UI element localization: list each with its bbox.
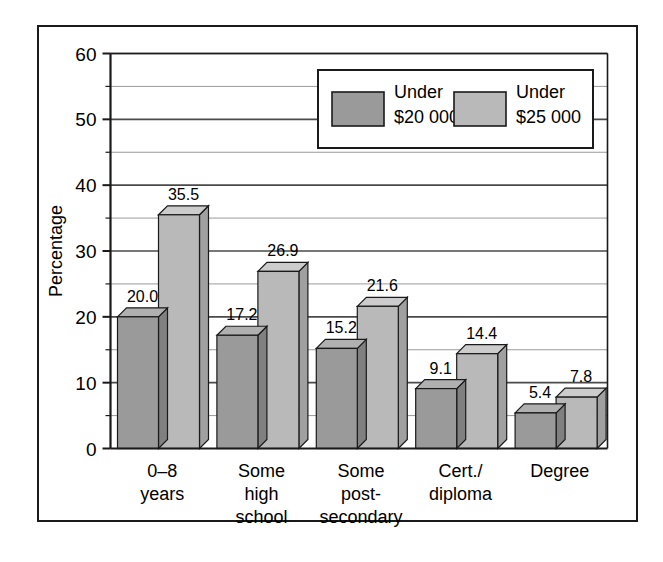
- bar-top-face: [556, 388, 606, 397]
- bar-side-face: [498, 345, 507, 449]
- x-category-label: secondary: [319, 507, 402, 527]
- bar-top-face: [258, 262, 308, 271]
- bar-value-label: 26.9: [267, 242, 298, 259]
- legend-swatch-1: [332, 92, 384, 126]
- legend-label-2: $25 000: [516, 107, 581, 127]
- bar-1-series-1: 20.0: [118, 288, 168, 449]
- bar-top-face: [416, 380, 466, 389]
- bar-value-label: 17.2: [226, 306, 257, 323]
- bar-value-label: 20.0: [127, 288, 158, 305]
- x-category-label: 0–8: [147, 461, 177, 481]
- bar-front-face: [316, 348, 357, 448]
- bar-side-face: [159, 308, 168, 449]
- x-category-label: diploma: [429, 484, 493, 504]
- bar-side-face: [258, 326, 267, 448]
- bar-value-label: 7.8: [570, 368, 592, 385]
- bar-top-face: [118, 308, 168, 317]
- legend-label-1: $20 000: [394, 107, 459, 127]
- bar-side-face: [457, 380, 466, 449]
- x-category-label: high: [245, 484, 279, 504]
- x-category-label: years: [140, 484, 184, 504]
- y-tick-label: 60: [75, 44, 96, 65]
- legend-label-2: Under: [516, 82, 565, 102]
- bar-value-label: 21.6: [367, 277, 398, 294]
- bar-value-label: 14.4: [466, 325, 497, 342]
- bar-front-face: [118, 317, 159, 449]
- bar-front-face: [515, 413, 556, 449]
- bar-top-face: [159, 206, 209, 215]
- y-tick-label: 10: [75, 373, 96, 394]
- legend-swatch-2: [454, 92, 506, 126]
- y-tick-label: 20: [75, 307, 96, 328]
- bar-5-series-1: 5.4: [515, 384, 565, 449]
- legend: Under$20 000Under$25 000: [318, 70, 593, 148]
- bar-front-face: [217, 335, 258, 448]
- bar-side-face: [357, 339, 366, 448]
- x-category-label: post-: [341, 484, 381, 504]
- bar-top-face: [457, 345, 507, 354]
- bar-value-label: 35.5: [168, 186, 199, 203]
- x-category-label: Some: [238, 461, 285, 481]
- bar-side-face: [299, 262, 308, 448]
- bar-chart: 35.520.026.917.221.615.214.49.17.85.4010…: [0, 0, 663, 562]
- bar-value-label: 15.2: [326, 319, 357, 336]
- y-tick-label: 50: [75, 109, 96, 130]
- y-axis-title: Percentage: [46, 205, 66, 297]
- y-tick-label: 30: [75, 241, 96, 262]
- x-category-label: Degree: [530, 461, 589, 481]
- bar-top-face: [515, 404, 565, 413]
- x-category-label: school: [236, 507, 288, 527]
- bar-front-face: [416, 389, 457, 449]
- bar-top-face: [357, 297, 407, 306]
- legend-label-1: Under: [394, 82, 443, 102]
- bar-top-face: [316, 339, 366, 348]
- bar-2-series-1: 17.2: [217, 306, 267, 448]
- y-tick-label: 0: [86, 439, 97, 460]
- bar-side-face: [398, 297, 407, 448]
- bar-value-label: 5.4: [529, 384, 551, 401]
- bar-side-face: [200, 206, 209, 449]
- chart-figure: 35.520.026.917.221.615.214.49.17.85.4010…: [0, 0, 663, 562]
- bar-value-label: 9.1: [430, 360, 452, 377]
- x-category-label: Some: [337, 461, 384, 481]
- y-tick-label: 40: [75, 175, 96, 196]
- bar-top-face: [217, 326, 267, 335]
- x-category-label: Cert./: [438, 461, 482, 481]
- bar-side-face: [597, 388, 606, 448]
